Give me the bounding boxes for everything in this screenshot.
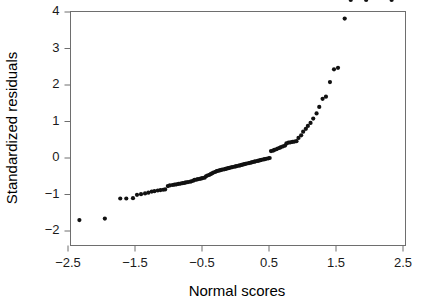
data-point xyxy=(311,116,315,120)
data-point xyxy=(77,218,81,222)
data-point xyxy=(163,187,167,191)
data-point xyxy=(139,192,143,196)
data-point xyxy=(343,16,347,20)
x-tick-label: 0.5 xyxy=(260,255,278,270)
x-tick-label: −2.5 xyxy=(55,255,81,270)
x-tick-label: 2.5 xyxy=(394,255,412,270)
y-tick-label: 4 xyxy=(52,3,59,18)
y-tick-label: 1 xyxy=(52,113,59,128)
data-point xyxy=(317,105,321,109)
data-point xyxy=(124,196,128,200)
x-tick-label: 1.5 xyxy=(327,255,345,270)
x-axis-title: Normal scores xyxy=(189,282,286,299)
data-point xyxy=(328,80,332,84)
data-point xyxy=(135,193,139,197)
data-point xyxy=(131,196,135,200)
y-tick-label: 2 xyxy=(52,76,59,91)
data-point xyxy=(332,67,336,71)
y-tick-label: −2 xyxy=(45,222,60,237)
data-point xyxy=(308,121,312,125)
data-point xyxy=(314,111,318,115)
y-tick-label: 3 xyxy=(52,40,59,55)
y-axis-title: Standardized residuals xyxy=(3,52,20,205)
data-point xyxy=(118,196,122,200)
data-point xyxy=(103,216,107,220)
x-tick-label: −0.5 xyxy=(189,255,215,270)
data-point xyxy=(299,133,303,137)
data-point xyxy=(324,95,328,99)
y-tick-label: −1 xyxy=(45,186,60,201)
x-tick-label: −1.5 xyxy=(122,255,148,270)
plot-canvas: −2.5−1.5−0.50.51.52.5 −2−101234 Normal s… xyxy=(0,0,421,307)
data-point xyxy=(336,66,340,70)
y-tick-label: 0 xyxy=(52,149,59,164)
data-point xyxy=(268,156,272,160)
qq-plot-figure: −2.5−1.5−0.50.51.52.5 −2−101234 Normal s… xyxy=(0,0,421,307)
